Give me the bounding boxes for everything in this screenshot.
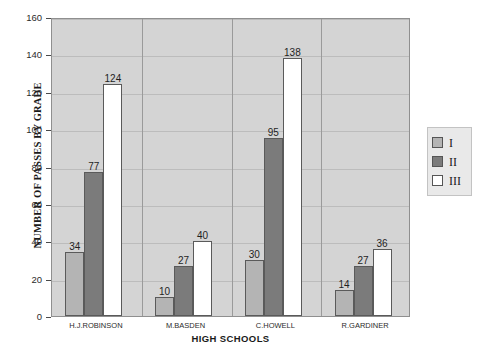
bar — [155, 297, 174, 316]
x-axis-category-label: H.J.ROBINSON — [51, 321, 141, 330]
x-axis-title: HIGH SCHOOLS — [51, 333, 410, 344]
bar-value-label: 30 — [239, 249, 270, 260]
bar-value-label: 27 — [348, 255, 379, 266]
bar — [103, 84, 122, 316]
y-axis-tick-label: 40 — [0, 236, 42, 247]
x-axis-category-label: M.BASDEN — [141, 321, 231, 330]
bar-value-label: 34 — [59, 241, 90, 252]
bar — [193, 241, 212, 316]
bar — [283, 58, 302, 316]
legend-item: II — [432, 152, 467, 171]
bar-value-label: 14 — [329, 279, 360, 290]
legend-swatch — [432, 137, 443, 148]
bar — [65, 252, 84, 316]
chart-legend: IIIIII — [427, 127, 472, 196]
y-axis-tick-label: 60 — [0, 199, 42, 210]
bar — [335, 290, 354, 316]
y-axis-tick-label: 0 — [0, 311, 42, 322]
y-axis-tick-label: 100 — [0, 124, 42, 135]
bar — [245, 260, 264, 316]
bar-value-label: 77 — [78, 161, 109, 172]
x-axis-category-label: R.GARDINER — [320, 321, 410, 330]
plot-area: 34771241027403095138142736 — [51, 18, 410, 317]
legend-item: I — [432, 133, 467, 152]
y-axis-tick-label: 140 — [0, 49, 42, 60]
bar-value-label: 36 — [367, 238, 398, 249]
y-axis-tick-label: 80 — [0, 162, 42, 173]
y-axis-tick — [46, 317, 51, 318]
x-axis-category-label: C.HOWELL — [231, 321, 321, 330]
group-separator — [321, 19, 322, 316]
legend-label: III — [449, 175, 461, 187]
group-separator — [232, 19, 233, 316]
bar — [354, 266, 373, 316]
y-axis-tick-label: 20 — [0, 274, 42, 285]
legend-label: I — [449, 137, 453, 149]
bar-chart-figure: NUMBER OF PASSES BY GRADE 02040608010012… — [0, 0, 482, 351]
bar-value-label: 10 — [149, 286, 180, 297]
bar-value-label: 124 — [97, 73, 128, 84]
gridline — [52, 56, 409, 57]
bar-value-label: 40 — [187, 230, 218, 241]
gridline — [52, 19, 409, 20]
y-axis-tick-label: 160 — [0, 12, 42, 23]
bar-value-label: 95 — [258, 127, 289, 138]
legend-swatch — [432, 156, 443, 167]
legend-swatch — [432, 175, 443, 186]
group-separator — [142, 19, 143, 316]
legend-item: III — [432, 171, 467, 190]
y-axis-tick-label: 120 — [0, 87, 42, 98]
legend-label: II — [449, 156, 457, 168]
bar-value-label: 27 — [168, 255, 199, 266]
bar-value-label: 138 — [277, 47, 308, 58]
bar — [264, 138, 283, 316]
